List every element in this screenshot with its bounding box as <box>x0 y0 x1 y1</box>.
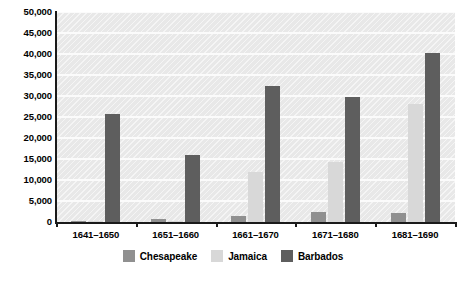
y-axis-tick-label: 20,000 <box>2 132 52 143</box>
x-axis-line <box>55 222 456 224</box>
y-axis-tick-label: 25,000 <box>2 111 52 122</box>
y-axis-tick-label: 30,000 <box>2 90 52 101</box>
bar-chart: 50,00045,00040,00035,00030,00025,00020,0… <box>0 0 466 281</box>
y-axis-tick-label: 0 <box>2 216 52 227</box>
bar <box>311 212 326 222</box>
legend-label: Jamaica <box>228 251 267 262</box>
x-axis-tick <box>56 222 58 227</box>
x-axis-tick-label: 1651–1660 <box>136 229 216 240</box>
x-axis-tick <box>295 222 297 227</box>
bar <box>391 213 406 222</box>
bar <box>408 104 423 222</box>
y-axis-tick-label: 10,000 <box>2 174 52 185</box>
x-axis-tick-label: 1661–1670 <box>216 229 296 240</box>
x-axis-tick-label: 1681–1690 <box>375 229 455 240</box>
legend-entry: Barbados <box>281 250 343 262</box>
legend-entry: Jamaica <box>211 250 267 262</box>
x-axis-tick <box>136 222 138 227</box>
x-axis-tick <box>375 222 377 227</box>
gridline <box>56 74 455 76</box>
gridline <box>56 95 455 97</box>
y-axis-tick-label: 15,000 <box>2 153 52 164</box>
x-axis-tick-label: 1671–1680 <box>295 229 375 240</box>
legend-swatch-icon <box>281 250 293 262</box>
gridline <box>56 32 455 34</box>
legend-swatch-icon <box>123 250 135 262</box>
gridline <box>56 53 455 55</box>
legend-label: Chesapeake <box>140 251 197 262</box>
y-axis-tick-label: 40,000 <box>2 48 52 59</box>
bar <box>328 162 343 222</box>
bar <box>345 97 360 222</box>
x-axis-tick <box>455 222 457 227</box>
y-axis-tick-label: 5,000 <box>2 195 52 206</box>
x-axis-tick <box>216 222 218 227</box>
y-axis-tick-label: 45,000 <box>2 27 52 38</box>
x-axis-tick-label: 1641–1650 <box>56 229 136 240</box>
legend-label: Barbados <box>298 251 343 262</box>
legend-entry: Chesapeake <box>123 250 197 262</box>
y-axis-line <box>55 11 57 224</box>
gridline <box>56 12 455 13</box>
bar <box>425 53 440 222</box>
chart-legend: ChesapeakeJamaicaBarbados <box>0 250 466 262</box>
plot-area <box>56 12 455 222</box>
legend-swatch-icon <box>211 250 223 262</box>
y-axis-tick-label: 50,000 <box>2 6 52 17</box>
bar <box>185 155 200 222</box>
y-axis-tick-labels: 50,00045,00040,00035,00030,00025,00020,0… <box>0 0 52 281</box>
y-axis-tick-label: 35,000 <box>2 69 52 80</box>
bar <box>248 172 263 222</box>
bar <box>105 114 120 222</box>
bar <box>265 86 280 222</box>
